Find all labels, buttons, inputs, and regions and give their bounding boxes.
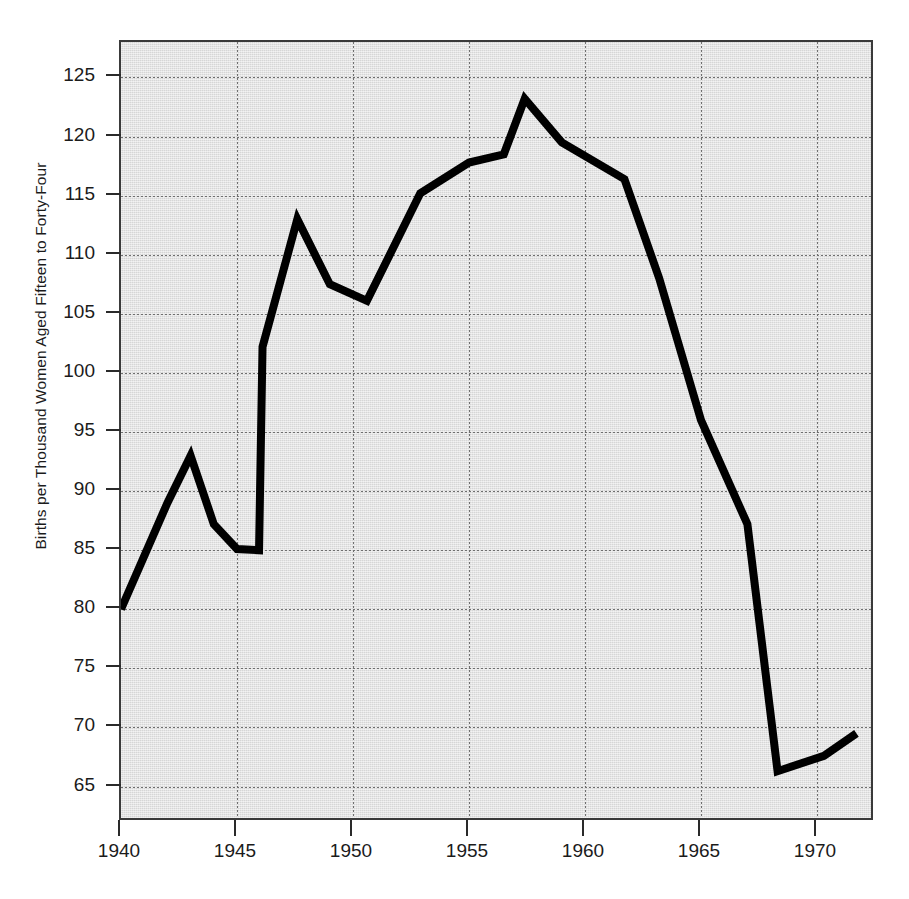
gridline-horizontal [121, 77, 871, 78]
x-axis-tick-label: 1955 [422, 840, 512, 862]
x-axis-tick-mark [466, 820, 468, 836]
y-axis-tick-label: 70 [35, 714, 95, 736]
y-axis-tick-label: 75 [35, 655, 95, 677]
y-axis-tick-label: 90 [35, 478, 95, 500]
plot-background-texture [121, 42, 871, 818]
gridline-vertical [585, 42, 586, 818]
gridline-horizontal [121, 491, 871, 492]
gridline-horizontal [121, 137, 871, 138]
y-axis-tick-mark [106, 665, 121, 667]
y-axis-tick-mark [106, 74, 121, 76]
x-axis-tick-mark [582, 820, 584, 836]
y-axis-tick-label: 120 [35, 124, 95, 146]
y-axis-tick-label: 80 [35, 596, 95, 618]
gridline-horizontal [121, 196, 871, 197]
x-axis-tick-label: 1965 [654, 840, 744, 862]
x-axis-tick-mark [698, 820, 700, 836]
gridline-horizontal [121, 314, 871, 315]
gridline-horizontal [121, 373, 871, 374]
fertility-rate-polyline [121, 99, 856, 771]
x-axis-tick-mark [350, 820, 352, 836]
y-axis-tick-mark [106, 134, 121, 136]
y-axis-tick-mark [106, 488, 121, 490]
y-axis-tick-mark [106, 547, 121, 549]
gridline-vertical [701, 42, 702, 818]
gridline-horizontal [121, 609, 871, 610]
gridline-horizontal [121, 668, 871, 669]
y-axis-tick-mark [106, 370, 121, 372]
y-axis-tick-label: 100 [35, 360, 95, 382]
y-axis-tick-label: 110 [35, 242, 95, 264]
plot-area [119, 40, 873, 820]
gridline-vertical [353, 42, 354, 818]
y-axis-tick-label: 115 [35, 183, 95, 205]
y-axis-tick-mark [106, 429, 121, 431]
x-axis-tick-label: 1970 [770, 840, 860, 862]
y-axis-tick-mark [106, 193, 121, 195]
x-axis-tick-label: 1940 [74, 840, 164, 862]
x-axis-tick-label: 1960 [538, 840, 628, 862]
gridline-vertical [237, 42, 238, 818]
y-axis-tick-mark [106, 784, 121, 786]
y-axis-tick-mark [106, 724, 121, 726]
gridline-horizontal [121, 432, 871, 433]
gridline-horizontal [121, 727, 871, 728]
x-axis-tick-label: 1950 [306, 840, 396, 862]
figure-container: Births per Thousand Women Aged Fifteen t… [0, 0, 909, 899]
gridline-horizontal [121, 550, 871, 551]
gridline-vertical [469, 42, 470, 818]
x-axis-tick-mark [234, 820, 236, 836]
y-axis-tick-mark [106, 606, 121, 608]
gridline-vertical [817, 42, 818, 818]
y-axis-tick-label: 65 [35, 774, 95, 796]
y-axis-tick-label: 95 [35, 419, 95, 441]
gridline-horizontal [121, 255, 871, 256]
gridline-horizontal [121, 787, 871, 788]
y-axis-tick-label: 85 [35, 537, 95, 559]
x-axis-tick-mark [814, 820, 816, 836]
y-axis-tick-mark [106, 252, 121, 254]
x-axis-tick-label: 1945 [190, 840, 280, 862]
x-axis-tick-mark [118, 820, 120, 836]
y-axis-tick-label: 125 [35, 64, 95, 86]
y-axis-tick-label: 105 [35, 301, 95, 323]
y-axis-tick-mark [106, 311, 121, 313]
data-line-series [121, 42, 873, 820]
